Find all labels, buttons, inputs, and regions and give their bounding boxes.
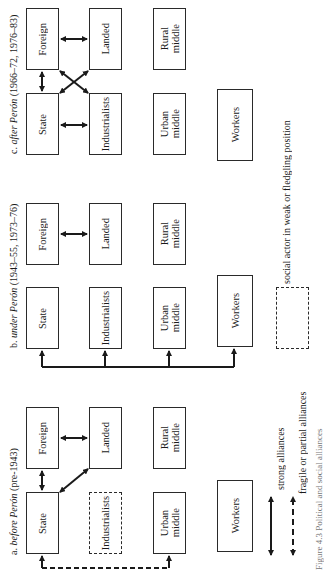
panel-c-title: c. after Perón (1966–72, 1976–83)	[8, 4, 19, 154]
actor-urban-middle: Urban middle	[153, 287, 186, 349]
actor-industrialists-weak: Industrialists	[89, 492, 122, 554]
legend-weak-actor-label: social actor in weak or fledgling positi…	[281, 200, 292, 284]
actor-urban-middle: Urban middle	[153, 93, 186, 155]
panel-a-title: a. before Perón (pre-1943)	[8, 405, 19, 555]
actor-state: State	[26, 492, 59, 554]
legend-symbols	[271, 497, 293, 555]
legend-fragile-label: fragile or partial alliances	[297, 380, 308, 494]
actor-industrialists: Industrialists	[89, 93, 122, 155]
actor-state: State	[26, 93, 59, 155]
legend-weak-actor-box	[276, 287, 309, 349]
actor-workers: Workers	[217, 480, 253, 552]
actor-landed: Landed	[89, 8, 122, 70]
panel-b-connectors	[42, 234, 234, 367]
actor-rural-middle: Rural middle	[153, 203, 186, 265]
actor-landed: Landed	[89, 203, 122, 265]
actor-rural-middle: Rural middle	[153, 8, 186, 70]
actor-foreign: Foreign	[26, 407, 59, 469]
actor-landed: Landed	[89, 407, 122, 469]
actor-urban-middle: Urban middle	[153, 492, 186, 554]
actor-foreign: Foreign	[26, 8, 59, 70]
actor-state: State	[26, 287, 59, 349]
actor-workers: Workers	[217, 89, 253, 161]
panel-b-title: b. under Perón (1943–55, 1973–76)	[8, 198, 19, 348]
figure-caption: Figure 4.3 Political and social alliance…	[314, 300, 324, 570]
actor-industrialists: Industrialists	[89, 287, 122, 349]
actor-rural-middle: Rural middle	[153, 407, 186, 469]
legend-strong-label: strong alliances	[275, 380, 286, 490]
actor-workers: Workers	[217, 275, 253, 347]
actor-foreign: Foreign	[26, 203, 59, 265]
